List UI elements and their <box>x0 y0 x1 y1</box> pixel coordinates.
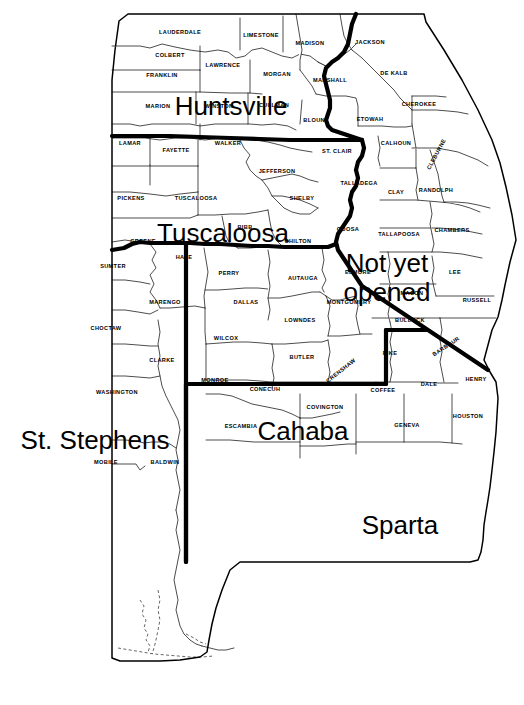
county-label-choctaw: CHOCTAW <box>91 325 122 331</box>
county-label-dale: DALE <box>421 381 438 387</box>
county-label-st-clair: ST. CLAIR <box>322 148 352 154</box>
county-label-pickens: PICKENS <box>117 195 144 201</box>
county-label-sumter: SUMTER <box>100 263 126 269</box>
county-label-pike: PIKE <box>383 350 397 356</box>
county-label-mobile: MOBILE <box>94 459 118 465</box>
district-label-not-yet: Not yet <box>346 248 429 278</box>
county-label-randolph: RANDOLPH <box>419 187 454 193</box>
county-label-henry: HENRY <box>465 376 486 382</box>
county-label-shelby: SHELBY <box>290 195 315 201</box>
county-label-blount: BLOUNT <box>303 117 329 123</box>
county-label-lauderdale: LAUDERDALE <box>159 29 201 35</box>
county-label-tuscaloosa-county: TUSCALOOSA <box>175 195 218 201</box>
county-label-covington: COVINGTON <box>307 404 344 410</box>
county-label-walker: WALKER <box>215 140 241 146</box>
county-label-coosa: COOSA <box>337 226 359 232</box>
county-label-autauga: AUTAUGA <box>288 275 318 281</box>
county-label-geneva: GENEVA <box>394 422 419 428</box>
county-label-washington: WASHINGTON <box>96 389 138 395</box>
county-label-coffee: COFFEE <box>371 387 396 393</box>
alabama-land-district-map: LAUDERDALE LIMESTONE MADISON JACKSON COL… <box>0 0 524 705</box>
county-label-conecuh: CONECUH <box>250 386 281 392</box>
county-label-monroe: MONROE <box>201 377 228 383</box>
district-label-sparta: Sparta <box>362 510 439 540</box>
county-label-clay: CLAY <box>388 189 404 195</box>
county-label-limestone: LIMESTONE <box>243 32 279 38</box>
county-label-marengo: MARENGO <box>149 299 181 305</box>
county-label-perry: PERRY <box>219 270 240 276</box>
county-label-jefferson: JEFFERSON <box>259 168 296 174</box>
county-label-baldwin: BALDWIN <box>151 459 180 465</box>
county-label-chambers: CHAMBERS <box>434 227 469 233</box>
county-label-russell: RUSSELL <box>463 297 492 303</box>
district-label-huntsville: Huntsville <box>175 91 288 121</box>
county-label-clarke: CLARKE <box>149 357 174 363</box>
county-label-lamar: LAMAR <box>119 140 141 146</box>
county-label-wilcox: WILCOX <box>214 335 238 341</box>
county-label-dallas: DALLAS <box>234 299 259 305</box>
county-label-dekalb: DE KALB <box>380 70 407 76</box>
county-label-bullock: BULLOCK <box>395 317 425 323</box>
county-label-cherokee: CHEROKEE <box>402 101 437 107</box>
county-label-talladega: TALLADEGA <box>340 180 377 186</box>
county-label-lowndes: LOWNDES <box>284 317 315 323</box>
county-label-franklin: FRANKLIN <box>146 72 177 78</box>
county-label-etowah: ETOWAH <box>357 116 384 122</box>
district-label-opened: opened <box>344 277 431 307</box>
district-label-cahaba: Cahaba <box>257 416 349 446</box>
district-label-tuscaloosa: Tuscaloosa <box>157 218 290 248</box>
county-label-houston: HOUSTON <box>453 413 483 419</box>
county-label-butler: BUTLER <box>290 354 315 360</box>
county-label-colbert: COLBERT <box>155 52 185 58</box>
district-label-st-stephens: St. Stephens <box>21 425 170 455</box>
county-label-marion: MARION <box>146 103 171 109</box>
county-label-madison: MADISON <box>296 40 325 46</box>
county-label-fayette: FAYETTE <box>162 147 189 153</box>
county-label-lawrence: LAWRENCE <box>206 62 241 68</box>
county-label-escambia: ESCAMBIA <box>225 423 258 429</box>
county-label-marshall: MARSHALL <box>313 77 347 83</box>
county-label-greene: GREENE <box>130 238 156 244</box>
county-label-morgan: MORGAN <box>263 71 291 77</box>
county-label-jackson: JACKSON <box>355 39 385 45</box>
county-label-tallapoosa: TALLAPOOSA <box>378 231 420 237</box>
county-label-hale: HALE <box>176 254 193 260</box>
map-svg: LAUDERDALE LIMESTONE MADISON JACKSON COL… <box>0 0 524 705</box>
county-label-calhoun: CALHOUN <box>381 140 411 146</box>
county-label-lee: LEE <box>449 269 461 275</box>
